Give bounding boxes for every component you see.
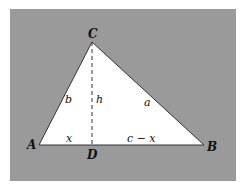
vertex-label-a: A xyxy=(26,138,36,152)
triangle-diagram: C A B D b h a x c − x xyxy=(0,0,246,190)
side-label-b: b xyxy=(65,93,72,106)
segment-label-x: x xyxy=(66,132,73,145)
segment-label-c-minus-x: c − x xyxy=(127,132,156,145)
altitude-label-h: h xyxy=(96,93,103,106)
vertex-label-c: C xyxy=(88,27,98,41)
side-label-a: a xyxy=(144,96,151,109)
vertex-label-d: D xyxy=(86,148,98,162)
vertex-label-b: B xyxy=(206,140,217,154)
